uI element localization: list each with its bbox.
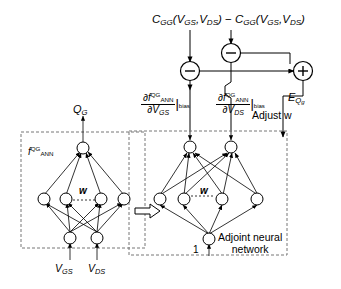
transfer-arrow-right [135,204,160,218]
error-label: EQg [288,92,305,105]
operator-minus-left [181,62,200,81]
operator-minus-top [222,44,241,63]
input-vgs-label: VGS [55,263,73,275]
figure-root: CGG(VGS,VDS) − CGG(VGS,VDS) ∂fQGANN ∂VGS… [0,0,341,289]
operator-plus-right [294,62,313,81]
output-charge-label: QG [73,104,88,116]
adjoint-bias-input-label: 1 [193,245,199,255]
diagram-canvas [0,0,341,289]
adjoint-weights-label: w [200,186,208,196]
forward-weights-label: w [79,186,87,196]
forward-network-name: fQGANN [28,146,54,158]
input-vds-label: VDS [88,263,105,275]
title-formula: CGG(VGS,VDS) − CGG(VGS,VDS) [152,14,305,27]
adjoint-network-caption: Adjoint neural network [218,231,282,255]
derivative-vgs-label: ∂fQGANN ∂VGS |bias [141,92,190,115]
adjoint-network-nodes [154,141,263,245]
adjust-weights-label: Adjust w [252,110,292,121]
